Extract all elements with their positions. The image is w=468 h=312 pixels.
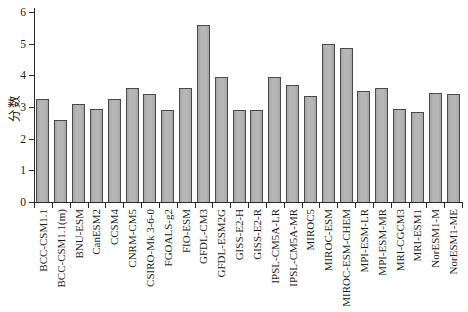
bar (340, 48, 353, 202)
x-tick (266, 203, 267, 208)
x-tick-label: MIROC-ESM-CHEM (340, 209, 352, 307)
x-tick (141, 203, 142, 208)
bar (90, 109, 103, 202)
bar (197, 25, 210, 202)
x-tick (88, 203, 89, 208)
bar (126, 88, 139, 202)
x-tick-label: MPI-ESM-MR (376, 209, 388, 276)
x-tick (105, 203, 106, 208)
bar (411, 112, 424, 202)
bar (304, 96, 317, 202)
y-tick (29, 12, 34, 13)
bar (233, 110, 246, 202)
y-tick-label: 1 (0, 163, 26, 177)
score-bar-chart: 分数 0123456BCC-CSM1.1BCC-CSM1.1(m)BNU-ESM… (0, 0, 468, 312)
x-tick-label: FIO-ESM (180, 209, 192, 253)
x-tick-label: CanESM2 (90, 209, 102, 255)
bar (72, 104, 85, 202)
x-tick-label: GISS-E2-H (233, 209, 245, 260)
x-tick (409, 203, 410, 208)
bar (429, 93, 442, 202)
y-tick-label: 2 (0, 132, 26, 146)
bar (393, 109, 406, 202)
bar (286, 85, 299, 202)
y-tick (29, 170, 34, 171)
x-tick (52, 203, 53, 208)
x-tick (426, 203, 427, 208)
bar (215, 77, 228, 202)
x-tick-label: NorESM1-M (429, 209, 441, 268)
x-tick-label: BCC-CSM1.1(m) (55, 209, 67, 288)
x-tick (34, 203, 35, 208)
y-tick-label: 6 (0, 5, 26, 19)
x-tick-label: GISS-E2-R (251, 209, 263, 260)
bar (447, 94, 460, 202)
y-tick-label: 3 (0, 100, 26, 114)
x-tick-label: MPI-ESM-LR (358, 209, 370, 273)
y-axis-line (34, 8, 35, 203)
x-tick-label: CNRM-CM5 (126, 209, 138, 268)
x-tick (212, 203, 213, 208)
x-tick-label: NorESM1-ME (447, 209, 459, 274)
x-tick-label: BNU-ESM (73, 209, 85, 259)
bar (143, 94, 156, 202)
x-tick (355, 203, 356, 208)
x-tick (319, 203, 320, 208)
y-tick-label: 4 (0, 68, 26, 82)
y-tick-label: 0 (0, 195, 26, 209)
bar (357, 91, 370, 202)
x-tick (373, 203, 374, 208)
x-tick (177, 203, 178, 208)
x-tick-label: IPSL-CM5A-MR (287, 209, 299, 287)
bar (179, 88, 192, 202)
y-tick (29, 107, 34, 108)
x-tick-label: CSIRO-Mk 3-6-0 (144, 209, 156, 287)
x-tick (391, 203, 392, 208)
x-tick-label: CCSM4 (108, 209, 120, 245)
bar (322, 44, 335, 202)
x-tick-label: BCC-CSM1.1 (37, 209, 49, 272)
y-tick (29, 44, 34, 45)
x-tick (444, 203, 445, 208)
bar (36, 99, 49, 202)
x-tick (230, 203, 231, 208)
y-tick (29, 139, 34, 140)
x-tick (302, 203, 303, 208)
x-tick-label: GFDL-ESM2G (215, 209, 227, 277)
y-tick (29, 75, 34, 76)
x-tick (70, 203, 71, 208)
y-tick-label: 5 (0, 37, 26, 51)
x-tick-label: MRI-CGCM3 (394, 209, 406, 271)
x-tick-label: GFDL-CM3 (197, 209, 209, 264)
bar (108, 99, 121, 202)
bar (375, 88, 388, 202)
x-tick-label: IPSL-CM5A-LR (269, 209, 281, 284)
x-tick-label: MIROC5 (304, 209, 316, 251)
x-tick-label: MIROC-ESM (322, 209, 334, 271)
x-tick (284, 203, 285, 208)
x-tick-label: FGOALS-g2 (162, 209, 174, 266)
x-tick (195, 203, 196, 208)
plot-area: 0123456BCC-CSM1.1BCC-CSM1.1(m)BNU-ESMCan… (0, 0, 468, 312)
x-tick-label: MRI-ESM1 (411, 209, 423, 262)
bar (250, 110, 263, 202)
bar (54, 120, 67, 202)
x-tick (337, 203, 338, 208)
x-tick (123, 203, 124, 208)
bar (161, 110, 174, 202)
x-tick (462, 203, 463, 208)
x-tick (159, 203, 160, 208)
x-tick (248, 203, 249, 208)
bar (268, 77, 281, 202)
